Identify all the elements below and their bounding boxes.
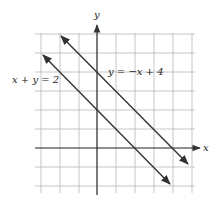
y-axis-label: y — [93, 9, 100, 20]
grid — [35, 33, 195, 193]
line2-label: x + y = 2 — [12, 74, 59, 85]
line-y-eq-neg-x-plus-4 — [61, 36, 188, 164]
x-axis-label: x — [203, 142, 209, 153]
line1-label: y = −x + 4 — [107, 66, 164, 77]
coordinate-plane: x y y = −x + 4 x + y = 2 — [0, 0, 221, 203]
